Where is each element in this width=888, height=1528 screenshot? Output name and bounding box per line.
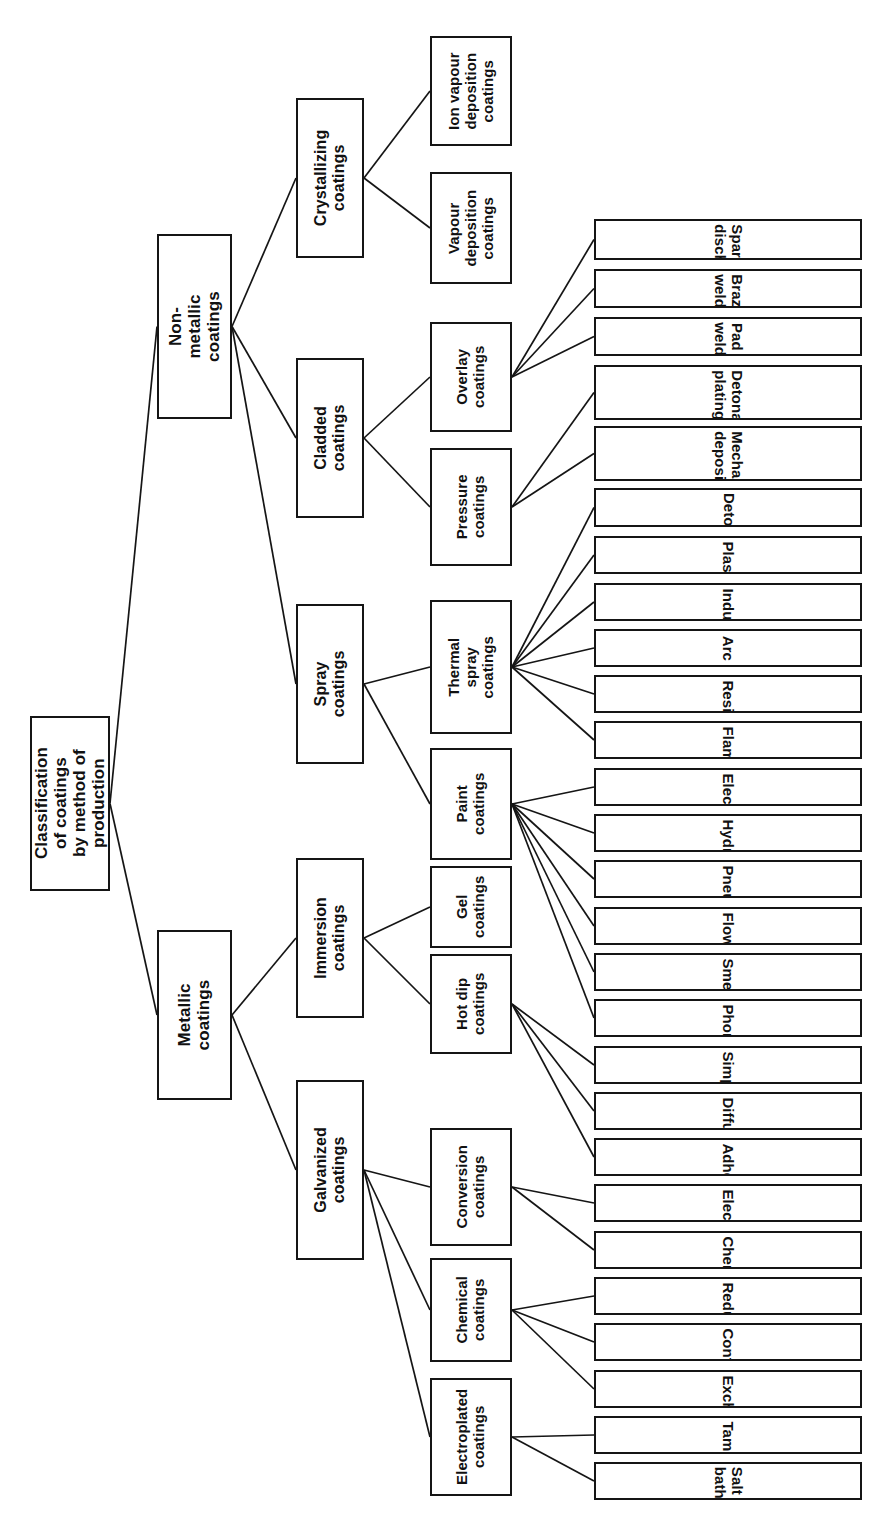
node-label: Resistance (720, 680, 737, 708)
leaf-node-braze-welding[interactable]: Braze welding (594, 269, 862, 308)
level3-node-gel[interactable]: Gel coatings (430, 866, 512, 948)
level3-node-overlay[interactable]: Overlay coatings (430, 322, 512, 432)
node-label: Gel coatings (454, 871, 488, 943)
leaf-node-adhesive[interactable]: Adhesive (594, 1138, 862, 1176)
leaf-node-tampon[interactable]: Tampon (594, 1416, 862, 1454)
edge-overlay-to-spark-discharge (512, 240, 594, 378)
edge-thermal-spray-to-resistance (512, 667, 594, 694)
leaf-node-flame[interactable]: Flame (594, 721, 862, 759)
edge-galvanized-to-conversion (364, 1170, 430, 1187)
level2-node-immersion[interactable]: Immersion coatings (296, 858, 364, 1018)
edge-crystallizing-to-ion-vapour-deposition (364, 91, 430, 178)
node-label: Overlay coatings (454, 338, 488, 416)
node-label: Arc (720, 634, 737, 662)
leaf-node-phoretic[interactable]: Phoretic (594, 999, 862, 1037)
edge-overlay-to-pad-welding (512, 337, 594, 378)
leaf-node-detonation-plating[interactable]: Detonation plating (594, 365, 862, 420)
leaf-node-pneumatic[interactable]: Pneumatic (594, 860, 862, 898)
level3-node-hot-dip[interactable]: Hot dip coatings (430, 954, 512, 1054)
node-label: Exchange (720, 1375, 737, 1403)
leaf-node-reduction[interactable]: Reduction (594, 1277, 862, 1315)
node-label: Pneumatic (720, 865, 737, 893)
node-label: Salt bath (711, 1467, 745, 1495)
edge-non-metallic-to-cladded (232, 327, 296, 439)
leaf-node-electrochemical[interactable]: Electrochemical (594, 1184, 862, 1222)
edge-hot-dip-to-diffusion (512, 1004, 594, 1111)
leaf-node-contact[interactable]: Contact (594, 1323, 862, 1361)
node-label: Tampon (720, 1421, 737, 1449)
node-label: Flow (720, 912, 737, 940)
node-label: Electroplated coatings (454, 1389, 488, 1485)
level3-node-conversion[interactable]: Conversion coatings (430, 1128, 512, 1246)
leaf-node-chemical[interactable]: Chemical (594, 1231, 862, 1269)
leaf-node-pad-welding[interactable]: Pad welding (594, 317, 862, 356)
node-label: Flame (720, 726, 737, 754)
edge-cladded-to-overlay (364, 377, 430, 438)
node-label: Pad welding (711, 322, 745, 351)
level3-node-electroplated[interactable]: Electroplated coatings (430, 1378, 512, 1496)
node-label: Detonation plating (711, 370, 745, 415)
leaf-node-plasma[interactable]: Plasma (594, 536, 862, 574)
node-label: Non-metallic coatings (166, 291, 223, 362)
leaf-node-resistance[interactable]: Resistance (594, 675, 862, 713)
edge-galvanized-to-chemical-coatings (364, 1170, 430, 1310)
level2-node-cladded[interactable]: Cladded coatings (296, 358, 364, 518)
node-label: Pressure coatings (454, 468, 488, 546)
leaf-node-flow[interactable]: Flow (594, 907, 862, 945)
node-label: Electrochemical (720, 1189, 737, 1217)
leaf-node-spark-discharge[interactable]: Spark discharge (594, 219, 862, 260)
leaf-node-exchange[interactable]: Exchange (594, 1370, 862, 1408)
edge-thermal-spray-to-flame (512, 667, 594, 740)
edge-thermal-spray-to-induction (512, 602, 594, 667)
edge-electroplated-to-salt-bath (512, 1437, 594, 1481)
edge-paint-to-hydrodynamic (512, 804, 594, 833)
edge-non-metallic-to-crystallizing (232, 178, 296, 327)
leaf-node-electrostatic[interactable]: Electrostatic (594, 768, 862, 806)
level3-node-pressure[interactable]: Pressure coatings (430, 448, 512, 566)
level2-node-spray[interactable]: Spray coatings (296, 604, 364, 764)
edge-hot-dip-to-simple (512, 1004, 594, 1065)
leaf-node-diffusion[interactable]: Diffusion (594, 1092, 862, 1130)
node-label: Electrostatic (720, 773, 737, 801)
node-label: Smeared (720, 958, 737, 986)
level3-node-ion-vapour-deposition[interactable]: Ion vapour deposition coatings (430, 36, 512, 146)
node-label: Spray coatings (312, 651, 348, 718)
leaf-node-salt-bath[interactable]: Salt bath (594, 1462, 862, 1500)
leaf-node-mechanical-deposition[interactable]: Mechanical deposition (594, 426, 862, 481)
leaf-node-hydrodynamic[interactable]: Hydrodynamic (594, 814, 862, 852)
node-label: Vapour deposition coatings (446, 189, 496, 267)
node-label: Adhesive (720, 1143, 737, 1171)
node-label: Contact (720, 1328, 737, 1356)
level3-node-thermal-spray[interactable]: Thermal spray coatings (430, 600, 512, 734)
node-label: Chemical (720, 1236, 737, 1264)
leaf-node-induction[interactable]: Induction (594, 583, 862, 621)
level3-node-paint[interactable]: Paint coatings (430, 748, 512, 860)
level3-node-vapour-deposition[interactable]: Vapour deposition coatings (430, 172, 512, 284)
level2-node-crystallizing[interactable]: Crystallizing coatings (296, 98, 364, 258)
root-node[interactable]: Classification of coatings by method of … (30, 716, 110, 891)
leaf-node-smeared[interactable]: Smeared (594, 953, 862, 991)
edge-immersion-to-gel (364, 907, 430, 938)
edge-thermal-spray-to-plasma (512, 555, 594, 667)
level1-node-metallic[interactable]: Metallic coatings (157, 930, 232, 1100)
edge-paint-to-phoretic (512, 804, 594, 1018)
level1-node-non-metallic[interactable]: Non-metallic coatings (157, 234, 232, 419)
node-label: Induction (720, 588, 737, 616)
edge-chemical-coatings-to-exchange (512, 1310, 594, 1389)
node-label: Conversion coatings (454, 1145, 488, 1229)
node-label: Crystallizing coatings (312, 130, 348, 226)
edge-conversion-to-chemical (512, 1187, 594, 1250)
edge-hot-dip-to-adhesive (512, 1004, 594, 1157)
level3-node-chemical-coatings[interactable]: Chemical coatings (430, 1258, 512, 1362)
leaf-node-arc[interactable]: Arc (594, 629, 862, 667)
node-label: Classification of coatings by method of … (32, 748, 108, 860)
level2-node-galvanized[interactable]: Galvanized coatings (296, 1080, 364, 1260)
node-label: Diffusion (720, 1097, 737, 1125)
node-label: Hot dip coatings (454, 965, 488, 1043)
edge-root-to-metallic (110, 804, 157, 1016)
node-label: Mechanical deposition (711, 431, 745, 476)
edge-root-to-non-metallic (110, 327, 157, 804)
edge-paint-to-smeared (512, 804, 594, 972)
leaf-node-simple[interactable]: Simple (594, 1046, 862, 1084)
leaf-node-detonation[interactable]: Detonation (594, 488, 862, 527)
